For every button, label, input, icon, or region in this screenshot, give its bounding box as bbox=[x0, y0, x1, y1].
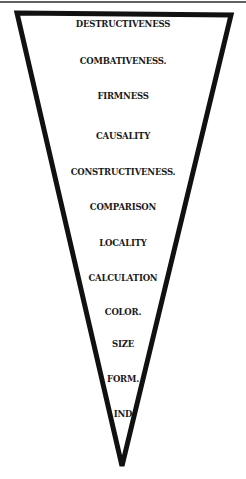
label-causality: CAUSALITY bbox=[0, 131, 246, 141]
label-size: SIZE bbox=[0, 339, 246, 349]
label-destructiveness: DESTRUCTIVENESS bbox=[0, 19, 246, 29]
label-ind: IND bbox=[0, 409, 246, 419]
label-calculation: CALCULATION bbox=[0, 273, 246, 283]
label-comparison: COMPARISON bbox=[0, 202, 246, 212]
label-combativeness: COMBATIVENESS. bbox=[0, 56, 246, 66]
label-color: COLOR. bbox=[0, 307, 246, 317]
label-firmness: FIRMNESS bbox=[0, 91, 246, 101]
label-constructiveness: CONSTRUCTIVENESS. bbox=[0, 167, 246, 177]
label-locality: LOCALITY bbox=[0, 238, 246, 248]
label-form: FORM. bbox=[0, 374, 246, 384]
